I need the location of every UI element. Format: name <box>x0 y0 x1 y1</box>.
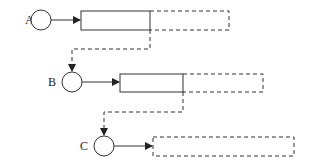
stage-b-label: B <box>48 75 56 89</box>
stage-b: B <box>48 72 263 92</box>
stage-c-dashed-bar <box>153 137 294 156</box>
connector-a-to-b <box>72 30 150 71</box>
stage-b-dashed-bar <box>183 74 263 92</box>
connector-b-to-c <box>104 92 183 135</box>
stage-c: C <box>80 136 294 156</box>
stage-b-node <box>62 72 82 92</box>
stage-a: A <box>25 10 229 30</box>
stage-a-node <box>31 10 51 30</box>
stage-b-solid-bar <box>120 74 183 92</box>
stage-a-solid-bar <box>81 11 150 30</box>
pipeline-diagram: A B C <box>0 0 310 167</box>
stage-a-dashed-bar <box>150 11 229 30</box>
stage-c-node <box>94 136 114 156</box>
stage-c-label: C <box>80 139 88 153</box>
